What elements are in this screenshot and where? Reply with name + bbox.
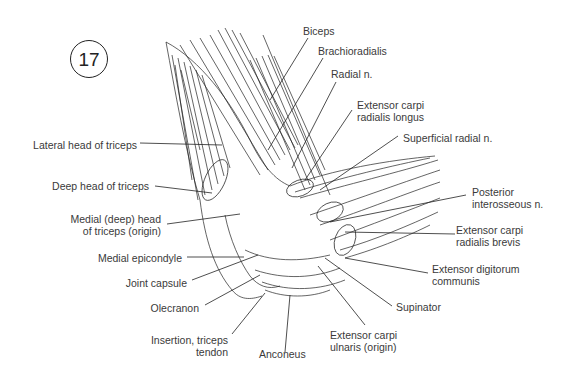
label-ecrb-line2: radialis brevis	[456, 236, 520, 248]
figure-number-badge: 17	[70, 40, 108, 78]
label-deep-head-triceps: Deep head of triceps	[52, 180, 149, 192]
label-posterior-interosseous-line1: Posterior	[472, 186, 514, 198]
label-biceps: Biceps	[303, 25, 335, 37]
label-ecrl-line1: Extensor carpi	[357, 99, 424, 111]
label-anconeus: Anconeus	[259, 348, 306, 360]
label-olecranon: Olecranon	[151, 302, 199, 314]
label-medial-head-line2: of triceps (origin)	[83, 225, 161, 237]
label-medial-head-line1: Medial (deep) head	[71, 213, 161, 225]
label-ecrl-line2: radialis longus	[357, 111, 424, 123]
label-radial-nerve: Radial n.	[331, 68, 372, 80]
label-edc-line1: Extensor digitorum	[432, 263, 520, 275]
arm-outline	[166, 28, 440, 298]
label-lateral-head-triceps: Lateral head of triceps	[33, 139, 137, 151]
label-medial-epicondyle: Medial epicondyle	[98, 252, 182, 264]
label-brachioradialis: Brachioradialis	[318, 45, 387, 57]
label-superficial-radial-nerve: Superficial radial n.	[403, 132, 492, 144]
label-ecrb-line1: Extensor carpi	[456, 224, 523, 236]
label-insertion-line1: Insertion, triceps	[151, 334, 228, 346]
anatomy-figure: 17 Biceps Brachioradialis Radial n. Exte…	[0, 0, 573, 374]
label-posterior-interosseous-line2: interosseous n.	[472, 198, 543, 210]
label-insertion-line2: tendon	[196, 346, 228, 358]
label-joint-capsule: Joint capsule	[126, 277, 187, 289]
label-ecu-line2: ulnaris (origin)	[330, 341, 397, 353]
label-ecu-line1: Extensor carpi	[330, 329, 397, 341]
label-edc-line2: communis	[432, 275, 480, 287]
label-supinator: Supinator	[396, 301, 441, 313]
